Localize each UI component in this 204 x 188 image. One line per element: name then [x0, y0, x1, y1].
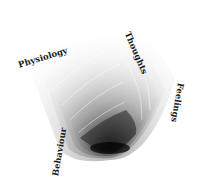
vortex-diagram: Physiology Thoughts Feelings Behaviour	[0, 0, 204, 188]
spiral-bands	[30, 20, 175, 161]
